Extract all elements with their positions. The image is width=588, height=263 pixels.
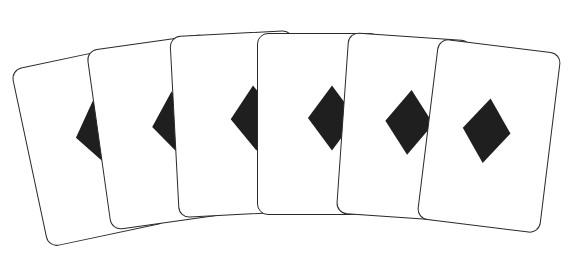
card-fan: diamonddiamonddiamonddiamonddiamonddiamo… xyxy=(0,0,588,263)
diamond-icon xyxy=(463,99,511,163)
card-suit-label: diamond xyxy=(87,51,88,52)
playing-card-6[interactable]: diamond xyxy=(416,38,561,234)
card-suit-label: diamond xyxy=(12,70,13,71)
